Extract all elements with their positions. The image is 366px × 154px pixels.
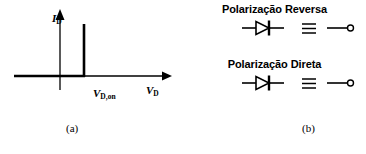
- iv-characteristic-plot: [0, 0, 183, 120]
- forward-bias-model: Polarização Direta: [183, 57, 366, 98]
- equivalent-icon: [300, 76, 318, 92]
- reverse-bias-symbol-row: [183, 17, 366, 43]
- open-circuit-icon: [325, 72, 363, 94]
- reverse-bias-title: Polarização Reversa: [183, 2, 366, 16]
- equivalent-icon: [300, 21, 318, 37]
- y-axis-label: ID: [52, 13, 62, 24]
- forward-bias-title: Polarização Direta: [183, 57, 366, 71]
- reverse-bias-model: Polarização Reversa: [183, 2, 366, 43]
- threshold-voltage-label: VD,on: [93, 88, 116, 99]
- diode-curve: [14, 24, 85, 77]
- panel-b-equivalent-models: Polarização Reversa: [183, 0, 366, 154]
- panel-a-caption: (a): [66, 123, 78, 134]
- panel-a-iv-characteristic: ID VD VD,on (a): [0, 0, 183, 154]
- x-axis-label: VD: [146, 85, 159, 96]
- diode-icon: [240, 17, 290, 39]
- open-circuit-icon: [325, 17, 363, 39]
- forward-bias-symbol-row: [183, 72, 366, 98]
- diode-icon: [240, 72, 290, 94]
- panel-b-caption: (b): [302, 123, 315, 134]
- diode-model-figure: ID VD VD,on (a) Polarização Reversa: [0, 0, 366, 154]
